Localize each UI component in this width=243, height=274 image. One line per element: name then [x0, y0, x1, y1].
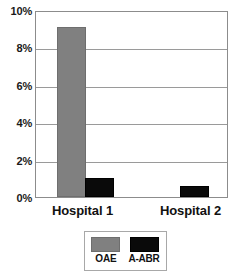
legend-entries: OAE A-ABR	[85, 232, 166, 270]
legend-label-oae: OAE	[95, 254, 116, 264]
legend-label-a-abr: A-ABR	[128, 254, 159, 264]
legend-entry-a-abr: A-ABR	[128, 237, 159, 264]
y-axis-tick-label: 6%	[0, 80, 32, 91]
x-axis-tick-label-hospital-2: Hospital 2	[143, 203, 238, 219]
y-axis-tick-label: 2%	[0, 155, 32, 166]
legend-swatch-a-abr-icon	[130, 237, 159, 252]
bar-hospital-1-oae	[57, 27, 86, 197]
y-axis-tick-label: 0%	[0, 193, 32, 204]
legend-swatch-oae-icon	[91, 237, 120, 252]
y-axis-tick-label: 4%	[0, 118, 32, 129]
x-axis-tick-label-hospital-1: Hospital 1	[35, 203, 130, 219]
bar-hospital-1-a-abr	[85, 178, 114, 197]
plot-area	[35, 11, 228, 198]
bar-hospital-2-a-abr	[180, 186, 209, 197]
legend: OAE A-ABR	[84, 231, 167, 271]
y-axis-tick-label: 8%	[0, 43, 32, 54]
bar-chart: 10% 8% 6% 4% 2% 0% Hospital 1 Hospital 2…	[0, 0, 243, 274]
y-axis-tick-label: 10%	[0, 6, 32, 17]
legend-entry-oae: OAE	[91, 237, 120, 264]
